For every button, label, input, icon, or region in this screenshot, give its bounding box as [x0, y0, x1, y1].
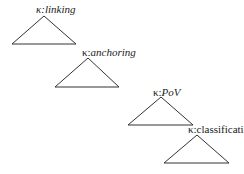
label-linking: κ:linking	[36, 3, 76, 15]
triangle-anchoring	[55, 58, 119, 87]
label-classification: κ:classification	[188, 123, 244, 135]
triangle-classification	[164, 135, 229, 163]
label-pov: κ:PoV	[153, 86, 181, 98]
triangle-linking	[12, 16, 76, 44]
diagram-canvas	[0, 0, 244, 174]
triangle-pov	[128, 97, 193, 125]
label-anchoring: κ:anchoring	[82, 46, 136, 58]
